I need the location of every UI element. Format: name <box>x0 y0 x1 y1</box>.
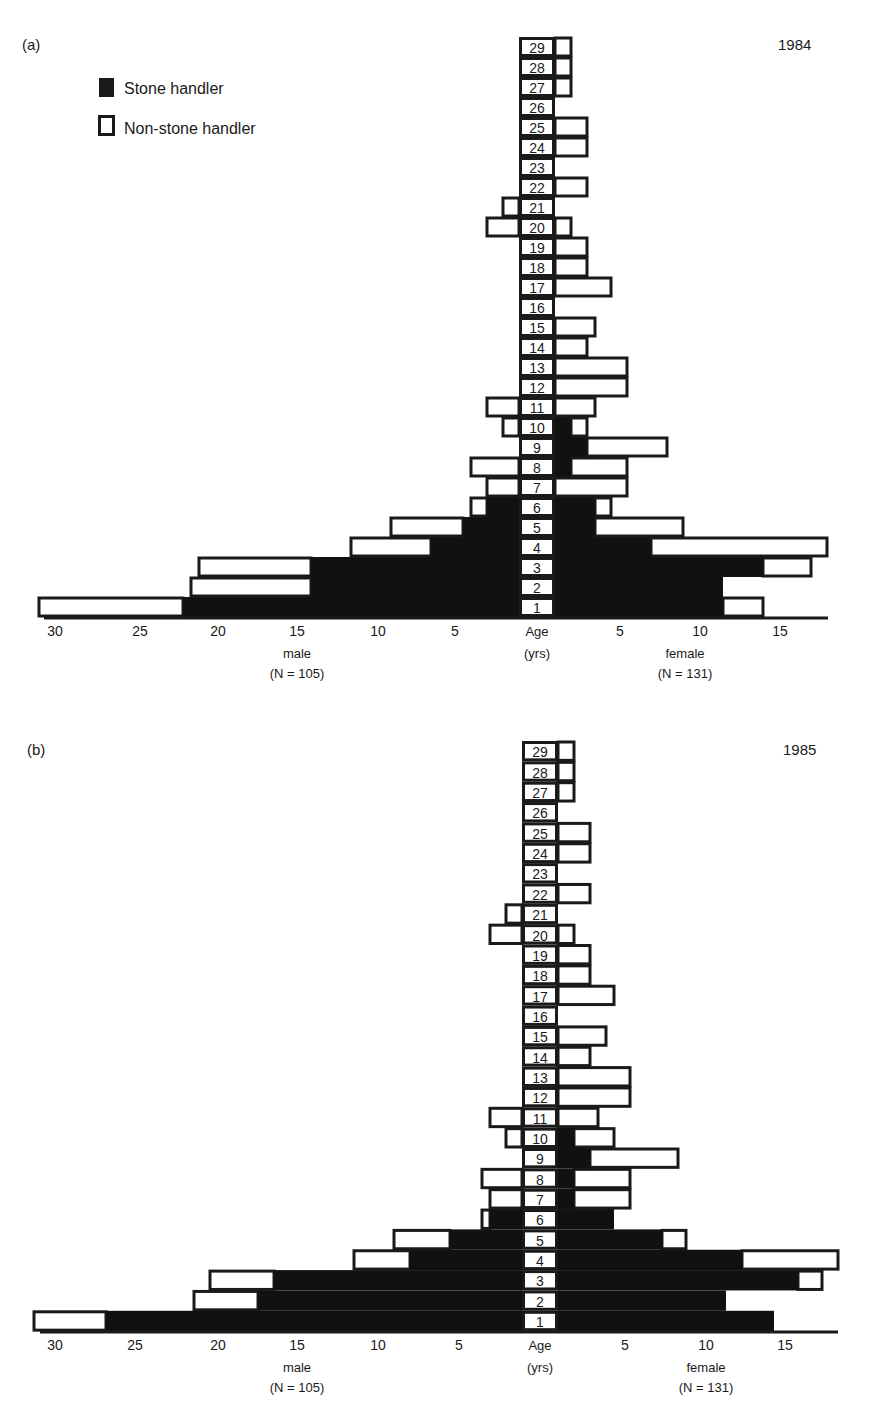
male-non-stone-bar <box>487 398 519 416</box>
age-cell-label: 17 <box>529 280 545 296</box>
female-non-stone-bar <box>555 358 627 376</box>
male-non-stone-bar <box>34 1312 106 1330</box>
male-non-stone-bar <box>482 1169 522 1187</box>
male-non-stone-bar <box>39 598 183 616</box>
age-cell-label: 4 <box>536 1253 544 1269</box>
age-cell-label: 6 <box>536 1212 544 1228</box>
female-stone-bar <box>558 1148 590 1168</box>
age-cell-label: 27 <box>529 80 545 96</box>
age-cell-label: 21 <box>529 200 545 216</box>
age-column: 1234567891011121314151617181920212223242… <box>521 39 554 617</box>
male-n-label: (N = 105) <box>270 666 325 681</box>
age-cell-label: 23 <box>529 160 545 176</box>
male-tick-label: 15 <box>289 623 305 639</box>
male-non-stone-bar <box>506 905 522 923</box>
male-tick-label: 10 <box>370 1337 386 1353</box>
year-label: 1984 <box>778 36 811 53</box>
female-non-stone-bar <box>558 1108 598 1126</box>
age-cell-label: 5 <box>536 1233 544 1249</box>
male-stone-bar <box>311 557 519 577</box>
male-tick-label: 25 <box>127 1337 143 1353</box>
female-non-stone-bar <box>555 338 587 356</box>
female-stone-bar <box>558 1290 726 1310</box>
female-stone-bar <box>558 1128 574 1148</box>
male-tick-label: 10 <box>370 623 386 639</box>
age-cell-label: 7 <box>536 1192 544 1208</box>
age-cell-label: 18 <box>532 968 548 984</box>
female-non-stone-bar <box>558 1068 630 1086</box>
female-non-stone-bar <box>558 823 590 841</box>
female-non-stone-bar <box>742 1251 838 1269</box>
age-cell-label: 19 <box>532 948 548 964</box>
age-cell-label: 29 <box>532 744 548 760</box>
age-cell-label: 10 <box>532 1131 548 1147</box>
female-non-stone-bar <box>587 438 667 456</box>
female-non-stone-bar <box>558 762 574 780</box>
male-non-stone-bar <box>351 538 431 556</box>
male-non-stone-bar <box>490 1190 522 1208</box>
age-cell-label: 28 <box>529 60 545 76</box>
male-non-stone-bar <box>191 578 311 596</box>
male-label: male <box>283 646 311 661</box>
male-non-stone-bar <box>487 478 519 496</box>
male-n-label: (N = 105) <box>270 1380 325 1395</box>
female-non-stone-bar <box>574 1190 630 1208</box>
female-non-stone-bar <box>574 1129 614 1147</box>
age-cell-label: 12 <box>529 380 545 396</box>
non-stone-handler-swatch-icon <box>100 117 114 135</box>
female-non-stone-bar <box>558 783 574 801</box>
female-non-stone-bar <box>558 966 590 984</box>
age-cell-label: 26 <box>529 100 545 116</box>
female-non-stone-bar <box>574 1169 630 1187</box>
female-non-stone-bar <box>555 278 611 296</box>
male-stone-bar <box>106 1311 522 1331</box>
age-axis-label: Age <box>528 1338 551 1353</box>
age-cell-label: 29 <box>529 40 545 56</box>
female-non-stone-bar <box>595 498 611 516</box>
female-stone-bar <box>558 1311 774 1331</box>
x-axis: 3025201510551015 <box>44 618 828 639</box>
age-cell-label: 16 <box>532 1009 548 1025</box>
female-stone-bar <box>555 417 571 437</box>
female-tick-label: 5 <box>621 1337 629 1353</box>
male-stone-bar <box>463 517 519 537</box>
age-cell-label: 28 <box>532 765 548 781</box>
population-pyramid-figure: Stone handler Non-stone handler (a) 1984… <box>0 0 870 1421</box>
female-non-stone-bar <box>558 1088 630 1106</box>
female-non-stone-bar <box>555 238 587 256</box>
male-stone-bar <box>183 597 519 617</box>
female-stone-bar <box>555 457 571 477</box>
age-cell-label: 15 <box>529 320 545 336</box>
female-non-stone-bar <box>555 398 595 416</box>
female-non-stone-bar <box>558 742 574 760</box>
female-non-stone-bar <box>555 218 571 236</box>
age-cell-label: 3 <box>536 1273 544 1289</box>
female-non-stone-bar <box>558 844 590 862</box>
female-non-stone-bar <box>555 178 587 196</box>
year-label: 1985 <box>783 741 816 758</box>
female-non-stone-bar <box>590 1149 678 1167</box>
male-stone-bar <box>450 1229 522 1249</box>
female-non-stone-bar <box>651 538 827 556</box>
x-axis: 3025201510551015 <box>40 1332 838 1353</box>
female-non-stone-bar <box>555 378 627 396</box>
male-non-stone-bar <box>490 925 522 943</box>
male-non-stone-bar <box>482 1210 490 1228</box>
female-stone-bar <box>558 1250 742 1270</box>
female-stone-bar <box>555 537 651 557</box>
age-cell-label: 22 <box>532 887 548 903</box>
age-cell-label: 2 <box>536 1294 544 1310</box>
age-cell-label: 25 <box>532 826 548 842</box>
age-cell-label: 9 <box>533 440 541 456</box>
male-tick-label: 25 <box>132 623 148 639</box>
female-non-stone-bar <box>798 1271 822 1289</box>
female-stone-bar <box>555 497 595 517</box>
female-non-stone-bar <box>558 1027 606 1045</box>
male-non-stone-bar <box>194 1291 258 1309</box>
age-cell-label: 16 <box>529 300 545 316</box>
female-stone-bar <box>558 1229 662 1249</box>
female-non-stone-bar <box>555 118 587 136</box>
male-stone-bar <box>487 497 519 517</box>
age-cell-label: 21 <box>532 907 548 923</box>
age-cell-label: 23 <box>532 866 548 882</box>
